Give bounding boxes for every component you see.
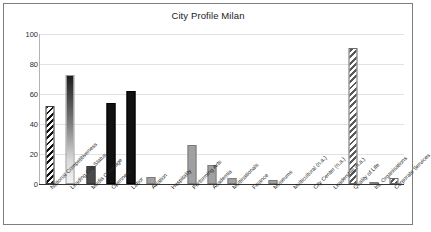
- bar-slot: [283, 34, 303, 184]
- bar-slot: [222, 34, 242, 184]
- bar[interactable]: [46, 106, 55, 184]
- y-tick-label: 0: [12, 180, 38, 189]
- bar[interactable]: [187, 145, 196, 184]
- bar-slot: [262, 34, 282, 184]
- y-tick-label: 60: [12, 90, 38, 99]
- chart-title: City Profile Milan: [4, 10, 412, 21]
- chart-frame: City Profile Milan 020406080100 National…: [3, 3, 413, 225]
- bar-slot: [161, 34, 181, 184]
- bar-slot: [40, 34, 60, 184]
- bar-slot: [182, 34, 202, 184]
- y-axis-tick-labels: 020406080100: [8, 34, 38, 184]
- y-tick-label: 40: [12, 120, 38, 129]
- y-tick-label: 20: [12, 150, 38, 159]
- bar-slot: [242, 34, 262, 184]
- bar-slot: [141, 34, 161, 184]
- bar-slot: [364, 34, 384, 184]
- y-tick-label: 100: [12, 30, 38, 39]
- x-axis-tick-labels: National CompetitivenessLeading City Sta…: [40, 186, 404, 232]
- y-tick-label: 80: [12, 60, 38, 69]
- bar-slot: [121, 34, 141, 184]
